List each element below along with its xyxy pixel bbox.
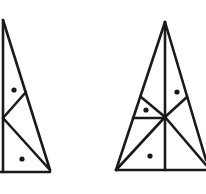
left-triangle-region-dot: [11, 87, 16, 92]
right-triangle: [116, 22, 206, 170]
left-triangle: [0, 20, 50, 172]
right-triangle-segment: [116, 117, 165, 170]
left-triangle-segment: [3, 92, 26, 118]
right-triangle-region-dot: [147, 153, 152, 158]
right-triangle-region-dot: [143, 107, 148, 112]
triangles-diagram: [0, 0, 206, 194]
left-triangle-region-dot: [19, 156, 24, 161]
figure: [0, 0, 206, 194]
right-triangle-region-dot: [174, 89, 179, 94]
right-triangle-segment: [141, 97, 165, 117]
left-triangle-segment: [3, 20, 50, 170]
right-triangle-segment: [165, 97, 187, 117]
